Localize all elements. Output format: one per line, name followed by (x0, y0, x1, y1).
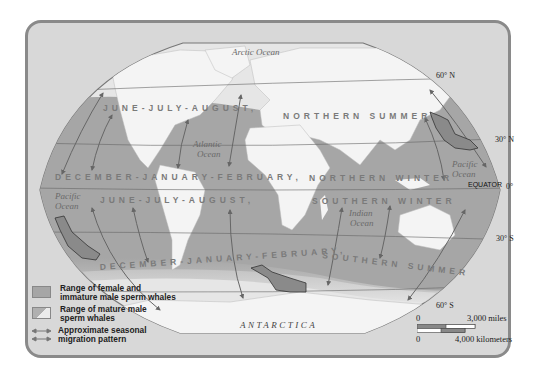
label-pacific-ocean-w: Pacific (54, 191, 81, 201)
season-label: NORTHERN WINTER (309, 173, 453, 183)
label-indian-ocean-2: Ocean (350, 218, 374, 228)
scale-miles-label: 3,000 miles (467, 313, 507, 323)
label-equator: EQUATOR (468, 181, 502, 189)
label-lat-0: 0° (506, 182, 513, 191)
label-lat-30s: 30° S (496, 234, 514, 243)
legend-item-migration: Approximate seasonal migration pattern (32, 326, 192, 344)
scale-bar-graphic (417, 324, 487, 334)
label-pacific-ocean-ne-2: Ocean (452, 169, 476, 179)
label-lat-30n: 30° N (495, 135, 514, 144)
label-pacific-ocean-w-2: Ocean (55, 201, 79, 211)
legend: Range of female and immature male sperm … (32, 284, 192, 347)
scale-bar: 0 3,000 miles 0 4,000 kilometers (413, 313, 523, 345)
label-arctic-ocean: Arctic Ocean (231, 47, 280, 57)
label-antarctica: ANTARCTICA (239, 320, 317, 330)
label-lat-60n: 60° N (436, 71, 455, 80)
swatch-female-range (32, 286, 51, 298)
double-arrow-icon (32, 326, 51, 344)
season-label: DECEMBER-JANUARY-FEBRUARY, (55, 172, 302, 182)
scale-km-label: 4,000 kilometers (455, 334, 512, 344)
legend-item-male-range: Range of mature male sperm whales (32, 305, 192, 323)
season-label: NORTHERN SUMMER (283, 111, 431, 121)
legend-item-female-range: Range of female and immature male sperm … (32, 284, 192, 302)
label-atlantic-ocean-2: Ocean (197, 149, 221, 159)
scale-zero-km: 0 (416, 334, 420, 344)
season-label: SOUTHERN WINTER (312, 196, 456, 206)
label-lat-60s: 60° S (436, 301, 454, 310)
season-label: JUNE-JULY-AUGUST, (100, 195, 254, 205)
label-atlantic-ocean: Atlantic (192, 139, 222, 149)
season-label: JUNE-JULY-AUGUST, (103, 103, 257, 113)
label-indian-ocean: Indian (348, 208, 373, 218)
scale-zero-miles: 0 (416, 313, 420, 323)
swatch-male-range (32, 307, 51, 319)
label-pacific-ocean-ne: Pacific (451, 159, 478, 169)
